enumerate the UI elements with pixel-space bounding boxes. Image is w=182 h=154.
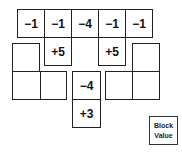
legend-line-1: Block: [154, 121, 173, 131]
left-plus-cell: +5: [44, 37, 72, 66]
block-value-legend: Block Value: [149, 116, 178, 145]
center-cell-upper: −4: [72, 71, 101, 100]
center-cell-lower: +3: [72, 99, 101, 128]
legend-line-2: Value: [154, 131, 172, 141]
top-cell-3: −4: [71, 9, 99, 38]
top-cell-1: −1: [17, 9, 45, 38]
top-cell-4: −1: [98, 9, 126, 38]
left-block-bottom-left: [12, 71, 41, 100]
right-block-bottom-left: [105, 71, 133, 100]
right-plus-cell: +5: [98, 37, 126, 66]
left-block-top: [12, 43, 40, 72]
top-cell-2: −1: [44, 9, 72, 38]
right-block-bottom-right: [132, 71, 160, 100]
left-block-bottom-right: [40, 71, 67, 100]
top-cell-5: −1: [125, 9, 153, 38]
right-block-top: [132, 43, 160, 72]
